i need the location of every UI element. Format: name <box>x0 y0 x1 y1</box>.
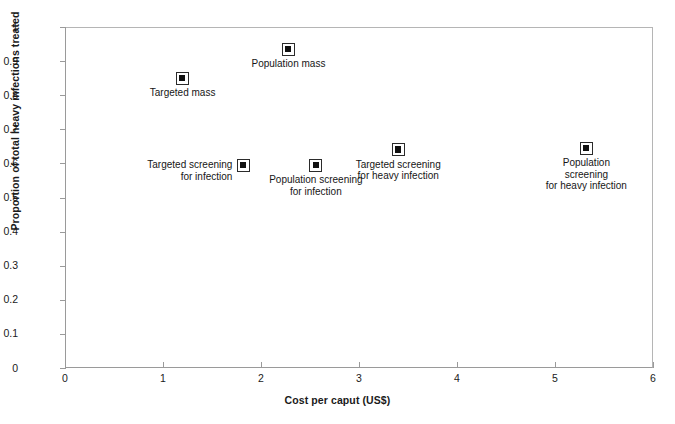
y-axis-tick-label: 0.2 <box>0 294 18 304</box>
data-point-label: Targeted screening for infection <box>147 159 232 182</box>
y-axis-tick-label: 0.5 <box>0 192 18 202</box>
x-axis-tick-label: 0 <box>45 373 85 384</box>
x-axis-tick-label: 4 <box>437 373 477 384</box>
x-axis-tick-label: 1 <box>143 373 183 384</box>
y-axis-tick-mark <box>60 198 66 199</box>
x-axis-tick-mark <box>457 362 458 368</box>
data-point-label: Population screening for infection <box>269 174 362 197</box>
y-axis-tick-mark <box>60 95 66 96</box>
x-axis-tick-mark <box>261 362 262 368</box>
plot-area <box>65 27 653 368</box>
y-axis-tick-mark <box>60 300 66 301</box>
y-axis-tick-mark <box>60 368 66 369</box>
y-axis-tick-label: 0 <box>0 363 18 373</box>
y-axis-tick-label: 0.7 <box>0 124 18 134</box>
data-point-label: Population screening for heavy infection <box>542 157 631 192</box>
data-point-marker[interactable] <box>309 159 322 172</box>
x-axis-tick-label: 2 <box>241 373 281 384</box>
y-axis-tick-label: 1 <box>0 22 18 32</box>
x-axis-tick-mark <box>163 362 164 368</box>
x-axis-title: Cost per caput (US$) <box>0 394 675 406</box>
y-axis-tick-mark <box>60 163 66 164</box>
data-point-label: Population mass <box>251 58 325 70</box>
y-axis-tick-mark <box>60 232 66 233</box>
y-axis-tick-mark <box>60 27 66 28</box>
y-axis-tick-label: 0.3 <box>0 260 18 270</box>
y-axis-tick-mark <box>60 334 66 335</box>
x-axis-tick-mark <box>65 362 66 368</box>
y-axis-tick-label: 0.6 <box>0 158 18 168</box>
data-point-label: Targeted mass <box>150 87 216 99</box>
x-axis-tick-mark <box>555 362 556 368</box>
y-axis-tick-mark <box>60 266 66 267</box>
y-axis-tick-label: 0.4 <box>0 226 18 236</box>
data-point-marker[interactable] <box>282 43 295 56</box>
y-axis-tick-label: 0.9 <box>0 56 18 66</box>
data-point-marker[interactable] <box>392 143 405 156</box>
x-axis-tick-mark <box>653 362 654 368</box>
y-axis-title: Proportion of total heavy infections tre… <box>9 0 21 286</box>
x-axis-tick-label: 3 <box>339 373 379 384</box>
y-axis-tick-mark <box>60 129 66 130</box>
data-point-label: Targeted screening for heavy infection <box>356 159 441 182</box>
y-axis-tick-label: 0.1 <box>0 328 18 338</box>
data-point-marker[interactable] <box>580 142 593 155</box>
y-axis-tick-label: 0.8 <box>0 90 18 100</box>
data-point-marker[interactable] <box>176 72 189 85</box>
x-axis-tick-label: 5 <box>535 373 575 384</box>
data-point-marker[interactable] <box>237 159 250 172</box>
x-axis-tick-mark <box>359 362 360 368</box>
scatter-chart-figure: Proportion of total heavy infections tre… <box>0 0 675 424</box>
y-axis-tick-mark <box>60 61 66 62</box>
x-axis-tick-label: 6 <box>633 373 673 384</box>
